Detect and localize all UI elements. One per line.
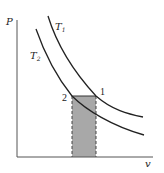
t2-subscript: 2	[36, 55, 41, 62]
point-2-label: 2	[62, 92, 67, 103]
t1-subscript: 1	[62, 26, 66, 33]
t2-label: T2	[30, 50, 41, 62]
x-axis-label: v	[145, 158, 151, 169]
shaded-work-area	[72, 96, 96, 157]
point-1-label: 1	[100, 86, 105, 97]
y-axis-label: P	[5, 16, 13, 27]
t1-label: T1	[55, 21, 66, 33]
pv-diagram: P v T1 T2 1 2	[0, 0, 164, 173]
